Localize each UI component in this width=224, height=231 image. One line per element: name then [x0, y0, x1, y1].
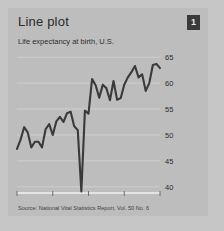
y-axis-tick-label: 65	[165, 53, 173, 62]
chart-x-axis: 19001910192019301940	[17, 191, 160, 198]
status-badge: 1	[187, 15, 200, 30]
y-axis-tick-label: 60	[165, 79, 173, 88]
chart-subtitle: Life expectancy at birth, U.S.	[18, 37, 114, 46]
y-axis-tick-label: 50	[165, 131, 173, 140]
chart-card: Line plot 1 Life expectancy at birth, U.…	[8, 8, 208, 216]
chart-svg: 404550556065 19001910192019301940	[8, 46, 208, 198]
y-axis-tick-label: 55	[165, 105, 173, 114]
chart-source-note: Source: National Vital Statistics Report…	[18, 205, 149, 211]
page-title: Line plot	[18, 14, 69, 29]
y-axis-tick-label: 45	[165, 157, 173, 166]
y-axis-tick-label: 40	[165, 183, 173, 192]
line-chart: 404550556065 19001910192019301940	[8, 46, 208, 198]
chart-y-axis: 404550556065	[165, 53, 173, 192]
